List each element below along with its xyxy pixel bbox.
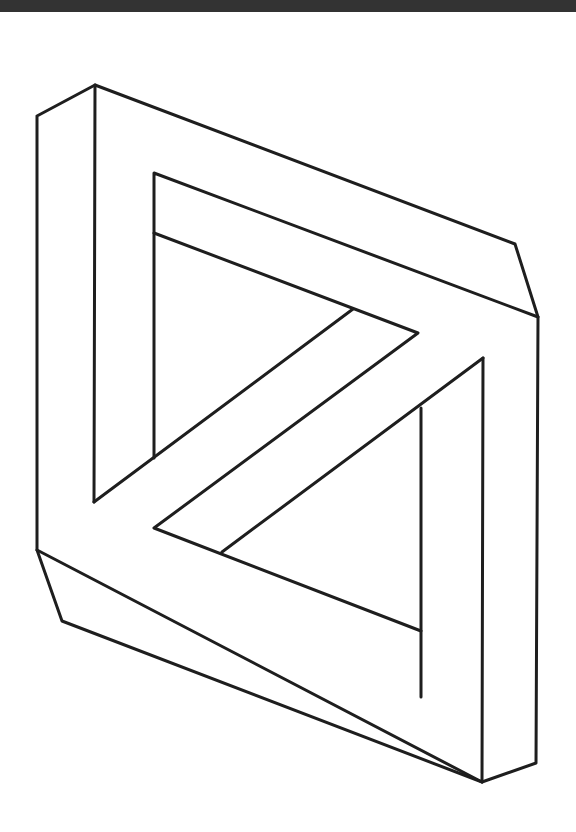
outer-outline <box>37 85 538 782</box>
edge <box>482 358 483 782</box>
edge <box>222 358 483 552</box>
edge <box>94 309 353 502</box>
impossible-figure-drawing <box>0 0 576 832</box>
edge <box>37 550 482 782</box>
edge <box>94 85 95 502</box>
